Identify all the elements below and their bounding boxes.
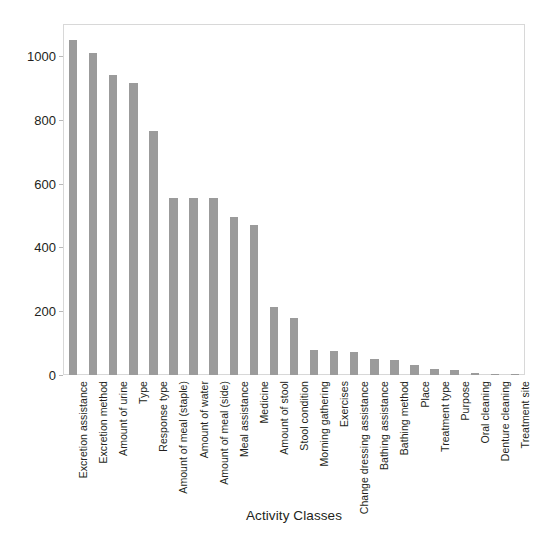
bar <box>471 373 479 375</box>
y-tick-label: 600 <box>34 176 56 191</box>
x-tick-label: Purpose <box>459 381 471 420</box>
bar <box>390 360 398 375</box>
bar <box>370 359 378 375</box>
x-tick-label: Response type <box>157 381 169 452</box>
bar <box>149 131 157 375</box>
x-axis-tick-labels: Excretion assistanceExcretion methodAmou… <box>63 377 525 505</box>
x-tick-label: Denture cleaning <box>499 381 511 461</box>
bar <box>491 374 499 375</box>
y-tick-mark <box>59 375 63 376</box>
bar <box>330 351 338 375</box>
figure-bar-chart: Number of samples 02004006008001000 Excr… <box>0 0 551 552</box>
y-tick-label: 400 <box>34 240 56 255</box>
bar <box>430 369 438 375</box>
x-tick-label: Treatment site <box>519 381 531 448</box>
x-tick-label: Bathing method <box>398 381 410 455</box>
x-tick-label: Treatment type <box>439 381 451 452</box>
bar <box>89 53 97 375</box>
x-tick-label: Excretion assistance <box>77 381 89 478</box>
x-tick-label: Place <box>419 381 431 408</box>
bar <box>109 75 117 375</box>
bar <box>290 318 298 375</box>
bar <box>129 83 137 375</box>
bars-layer <box>63 24 525 375</box>
bar <box>450 370 458 375</box>
x-tick-label: Amount of stool <box>278 381 290 455</box>
x-tick-label: Exercises <box>338 381 350 427</box>
y-axis-ticks: 02004006008001000 <box>0 0 63 552</box>
bar <box>511 374 519 375</box>
x-tick-label: Morning gathering <box>318 381 330 467</box>
x-tick-label: Amount of water <box>198 381 210 458</box>
bar <box>230 217 238 375</box>
y-tick-label: 800 <box>34 112 56 127</box>
x-axis-title: Activity Classes <box>63 508 525 523</box>
bar <box>169 198 177 375</box>
y-tick-label: 0 <box>49 368 56 383</box>
bar <box>209 198 217 375</box>
x-tick-label: Amount of meal (staple) <box>177 381 189 494</box>
x-tick-label: Stool condition <box>298 381 310 451</box>
y-tick-label: 200 <box>34 304 56 319</box>
x-tick-label: Bathing assistance <box>378 381 390 470</box>
x-tick-label: Change dressing assistance <box>358 381 370 514</box>
x-tick-label: Type <box>137 381 149 404</box>
bar <box>270 307 278 375</box>
x-tick-label: Amount of urine <box>117 381 129 456</box>
x-tick-label: Oral cleaning <box>479 381 491 444</box>
y-tick-label: 1000 <box>27 48 56 63</box>
bar <box>250 225 258 375</box>
bar <box>410 365 418 375</box>
bar <box>69 40 77 375</box>
bar <box>350 352 358 375</box>
bar <box>310 350 318 375</box>
x-tick-label: Medicine <box>258 381 270 423</box>
x-tick-label: Meal assistance <box>238 381 250 457</box>
x-tick-label: Amount of meal (side) <box>218 381 230 485</box>
bar <box>189 198 197 375</box>
x-tick-label: Excretion method <box>97 381 109 464</box>
